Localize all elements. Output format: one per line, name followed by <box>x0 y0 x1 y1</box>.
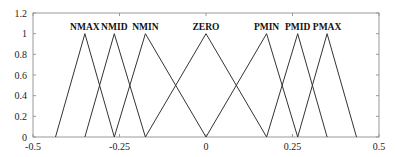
y-tick-label: 0.8 <box>15 49 28 60</box>
membership-function-chart: 00.20.40.60.811.2 -0.5-0.2500.250.5 NMAX… <box>0 0 396 157</box>
y-tick-label: 1 <box>22 28 27 39</box>
series-nmid-label: NMID <box>101 22 128 32</box>
y-tick-label: 0.2 <box>15 111 28 122</box>
series-pmax-line <box>298 34 357 137</box>
x-tick-label: -0.5 <box>25 141 41 152</box>
x-tick-label: 0.25 <box>284 141 302 152</box>
series-pmin-label: PMIN <box>254 22 279 32</box>
series-zero-line <box>145 34 266 137</box>
series-labels: NMAXNMIDNMINZEROPMINPMIDPMAX <box>70 22 341 32</box>
series-nmin-line <box>114 34 206 137</box>
series-pmid-label: PMID <box>285 22 310 32</box>
series-nmin-label: NMIN <box>132 22 159 32</box>
series-nmid-line <box>85 34 145 137</box>
x-tick-label: 0.5 <box>373 141 386 152</box>
y-tick-label: 1.2 <box>15 8 28 19</box>
series-pmin-line <box>206 34 298 137</box>
series-pmax-label: PMAX <box>313 22 342 32</box>
series-lines <box>56 34 357 137</box>
series-zero-label: ZERO <box>193 22 220 32</box>
y-tick-label: 0.6 <box>15 70 28 81</box>
x-tick-label: -0.25 <box>109 141 130 152</box>
x-tick-label: 0 <box>204 141 209 152</box>
y-tick-label: 0.4 <box>15 90 28 101</box>
series-nmax-line <box>56 34 115 137</box>
x-axis: -0.5-0.2500.250.5 <box>25 13 385 152</box>
series-nmax-label: NMAX <box>70 22 100 32</box>
series-pmid-line <box>267 34 328 137</box>
